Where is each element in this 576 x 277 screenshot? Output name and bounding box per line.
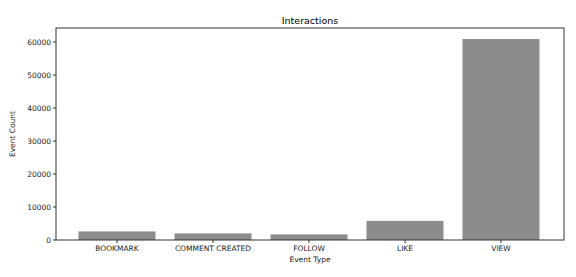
bar-bookmark <box>79 231 156 240</box>
x-tick-label: FOLLOW <box>293 244 325 253</box>
y-tick-label: 60000 <box>27 38 51 47</box>
bar-chart: Interactions 010000200003000040000500006… <box>0 0 576 277</box>
y-tick-label: 20000 <box>27 170 51 179</box>
y-tick-label: 50000 <box>27 71 51 80</box>
bars-group <box>79 39 540 240</box>
x-tick-label: BOOKMARK <box>95 244 140 253</box>
x-tick-label: VIEW <box>491 244 511 253</box>
x-axis-label: Event Type <box>289 255 330 264</box>
y-axis-ticks: 0100002000030000400005000060000 <box>27 38 56 245</box>
x-tick-label: COMMENT CREATED <box>175 244 251 253</box>
y-tick-label: 10000 <box>27 203 51 212</box>
x-tick-label: LIKE <box>397 244 413 253</box>
bar-like <box>367 221 444 240</box>
bar-view <box>463 39 540 240</box>
y-tick-label: 30000 <box>27 137 51 146</box>
bar-follow <box>271 234 348 240</box>
x-axis-ticks: BOOKMARKCOMMENT CREATEDFOLLOWLIKEVIEW <box>95 240 511 253</box>
y-axis-label: Event Count <box>8 111 17 157</box>
chart-title: Interactions <box>282 15 339 26</box>
y-tick-label: 0 <box>46 236 51 245</box>
bar-comment-created <box>175 233 252 240</box>
y-tick-label: 40000 <box>27 104 51 113</box>
